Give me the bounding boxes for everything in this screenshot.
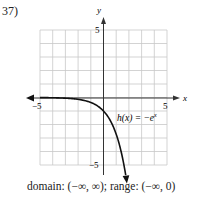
y-min-label: −5 [89, 160, 99, 170]
x-axis-arrow-icon [173, 96, 180, 101]
domain-range-caption: domain: (−∞, ∞); range: (−∞, 0) [27, 180, 175, 192]
left-arrow-icon [26, 95, 34, 102]
function-label: h(x) = −ex [117, 112, 157, 124]
graph: x y −5 5 5 −5 h(x) = −ex [0, 0, 200, 200]
x-max-label: 5 [163, 101, 168, 111]
x-axis-label: x [182, 93, 187, 103]
x-min-label: −5 [32, 101, 42, 111]
y-max-label: 5 [95, 25, 100, 35]
y-axis-label: y [96, 5, 101, 15]
y-axis-arrow-icon [101, 17, 106, 24]
